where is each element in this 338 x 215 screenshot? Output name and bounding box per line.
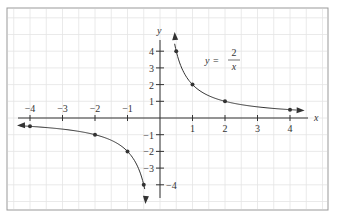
y-axis-label: y [156, 25, 162, 36]
y-tick-label: −1 [143, 130, 154, 141]
equation-numerator: 2 [232, 47, 237, 58]
data-point [191, 83, 195, 87]
equation-equals: = [213, 55, 219, 66]
data-point [174, 49, 178, 53]
data-point [28, 124, 32, 128]
data-point [223, 99, 227, 103]
x-tick-label: −3 [57, 103, 68, 114]
data-point [142, 183, 146, 187]
data-point [288, 108, 292, 112]
x-tick-label: 4 [288, 123, 293, 134]
y-tick-label: 2 [149, 80, 154, 91]
data-point [93, 133, 97, 137]
y-tick-label: 3 [149, 63, 154, 74]
axes: −4−3−2−112344321−1−2−3−4 [18, 40, 308, 198]
x-tick-label: 3 [255, 123, 260, 134]
equation-denominator: x [231, 61, 237, 72]
y-tick-label: −2 [143, 146, 154, 157]
data-point [126, 149, 130, 153]
arrow-left-icon [17, 122, 25, 128]
arrow-up-icon [172, 32, 178, 40]
x-tick-label: −2 [90, 103, 101, 114]
x-tick-label: −4 [25, 103, 36, 114]
hyperbola-chart: −4−3−2−112344321−1−2−3−4 x y y = 2 x [0, 0, 338, 215]
x-tick-label: −1 [122, 103, 133, 114]
y-tick-label: 4 [149, 46, 154, 57]
x-axis-label: x [313, 112, 319, 123]
y-tick-label: −3 [143, 163, 154, 174]
curve-negative-branch [20, 126, 144, 189]
arrow-right-icon [297, 107, 305, 113]
x-tick-label: 2 [223, 123, 228, 134]
equation-lhs: y [204, 55, 210, 66]
y-tick-label: −4 [166, 180, 177, 191]
y-tick-label: 1 [149, 96, 154, 107]
x-tick-label: 1 [190, 123, 195, 134]
